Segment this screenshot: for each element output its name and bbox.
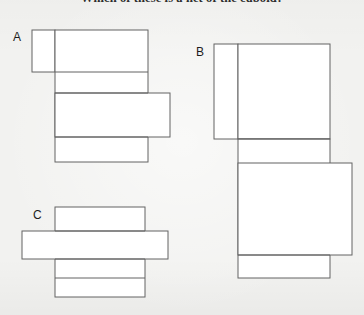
worksheet-page: Which of these is a net of the cuboid? [0, 0, 364, 315]
option-label-b: B [196, 45, 204, 59]
b-right-flap [238, 163, 352, 255]
b-top-panel [238, 44, 330, 139]
a-top-flap [32, 30, 55, 72]
b-left-flap [214, 44, 238, 139]
nets-figure-group [0, 0, 364, 315]
option-label-a: A [13, 30, 21, 44]
net-option-c[interactable] [22, 207, 168, 297]
net-option-b[interactable] [214, 44, 352, 278]
net-option-a[interactable] [32, 30, 170, 162]
a-side-flap [55, 93, 170, 137]
c-cross-strip [22, 231, 168, 259]
option-label-c: C [33, 208, 42, 222]
